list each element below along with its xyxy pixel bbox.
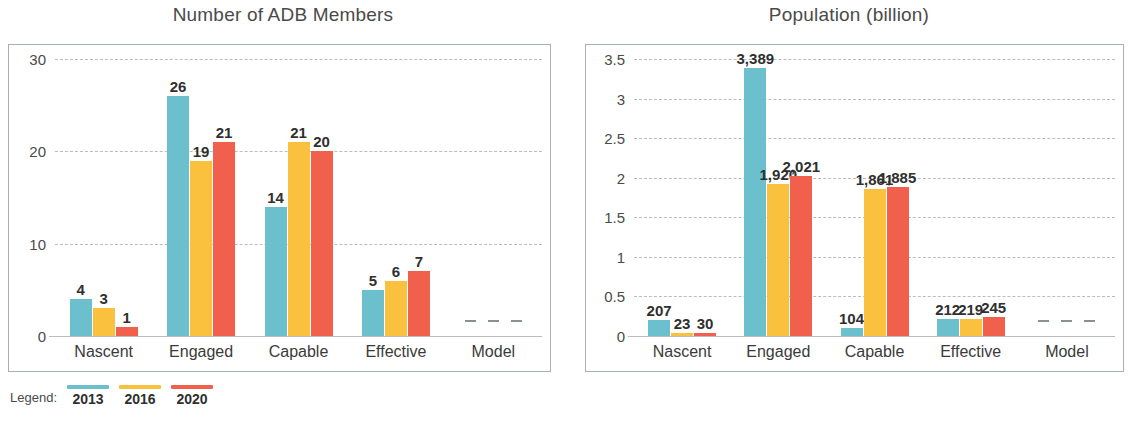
bar-slot (1056, 59, 1078, 336)
bar-2013-engaged[interactable]: 26 (167, 96, 189, 336)
bar-slot: 26 (167, 59, 189, 336)
x-axis-label-model: Model (445, 343, 542, 361)
x-axis-label-effective: Effective (347, 343, 444, 361)
y-axis-tick-label: 0 (38, 328, 46, 345)
bar-2013-capable[interactable]: 104 (841, 328, 863, 336)
bar-2020-nascent[interactable]: 30 (694, 333, 716, 336)
bar-slot: 1,920 (767, 59, 789, 336)
bar-group-model: Model (445, 59, 542, 336)
bar-2013-engaged[interactable]: 3,389 (744, 68, 766, 336)
bar-2016-nascent[interactable]: 3 (93, 308, 115, 336)
bar-2016-model[interactable] (1061, 320, 1072, 322)
bar-2016-capable[interactable]: 21 (288, 142, 310, 336)
bar-groups: 431Nascent261921Engaged142120Capable567E… (55, 59, 542, 336)
legend-swatch-2013 (67, 385, 109, 389)
bar-value-label: 1,885 (879, 170, 917, 185)
bar-slot: 3,389 (744, 59, 766, 336)
bar-slot: 1,885 (887, 59, 909, 336)
bar-2020-effective[interactable]: 245 (983, 317, 1005, 336)
bar-slot: 20 (311, 59, 333, 336)
bar-slot: 6 (385, 59, 407, 336)
y-axis-tick-label: 1.5 (604, 209, 625, 226)
bar-2016-nascent[interactable]: 23 (671, 333, 693, 336)
bar-group-capable: 1041,8611,885Capable (826, 59, 922, 336)
chart-title-population: Population (billion) (566, 4, 1132, 26)
bar-value-label: 6 (392, 264, 400, 279)
plot-area-population: 00.511.522.533.52072330Nascent3,3891,920… (634, 59, 1115, 336)
bar-2020-nascent[interactable]: 1 (116, 327, 138, 336)
bar-2020-effective[interactable]: 7 (408, 271, 430, 336)
bar-2016-engaged[interactable]: 19 (190, 161, 212, 336)
bar-2020-model[interactable] (511, 320, 522, 322)
bar-value-label: 19 (193, 144, 210, 159)
bar-2013-capable[interactable]: 14 (265, 207, 287, 336)
bar-2020-capable[interactable]: 20 (311, 151, 333, 336)
bar-value-label: 20 (313, 134, 330, 149)
bar-value-label: 219 (958, 302, 983, 317)
bar-slot: 23 (671, 59, 693, 336)
bar-2016-model[interactable] (488, 320, 499, 322)
x-axis-label-model: Model (1019, 343, 1115, 361)
bar-2013-nascent[interactable]: 207 (648, 320, 670, 336)
bar-2013-model[interactable] (465, 320, 476, 322)
bar-2013-nascent[interactable]: 4 (70, 299, 92, 336)
bar-slot (1079, 59, 1101, 336)
y-axis-tick-label: 3 (617, 90, 625, 107)
bar-2013-effective[interactable]: 212 (937, 319, 959, 336)
legend-item-2013[interactable]: 2013 (67, 385, 109, 406)
bar-2013-effective[interactable]: 5 (362, 290, 384, 336)
bar-group-capable: 142120Capable (250, 59, 347, 336)
bar-value-label: 3 (100, 291, 108, 306)
bar-slot (459, 59, 481, 336)
bar-2016-capable[interactable]: 1,861 (864, 189, 886, 336)
legend-year-label: 2020 (176, 392, 207, 406)
bar-2013-model[interactable] (1038, 320, 1049, 322)
bar-slot: 1,861 (864, 59, 886, 336)
bar-value-label: 21 (216, 125, 233, 140)
bar-slot: 1 (116, 59, 138, 336)
bar-2016-effective[interactable]: 219 (960, 319, 982, 336)
legend-item-2020[interactable]: 2020 (171, 385, 213, 406)
bar-slot: 5 (362, 59, 384, 336)
bar-slot (1033, 59, 1055, 336)
bar-value-label: 212 (935, 302, 960, 317)
bar-value-label: 1 (123, 310, 131, 325)
legend-caption: Legend: (10, 390, 57, 406)
x-axis-label-engaged: Engaged (730, 343, 826, 361)
y-axis-tick-label: 1 (617, 248, 625, 265)
bar-value-label: 245 (981, 300, 1006, 315)
bar-2020-capable[interactable]: 1,885 (887, 187, 909, 336)
y-axis-tick-label: 3.5 (604, 51, 625, 68)
bar-slot (482, 59, 504, 336)
y-axis-tick-label: 30 (29, 51, 46, 68)
y-axis-tick-label: 20 (29, 143, 46, 160)
bar-2020-engaged[interactable]: 21 (213, 142, 235, 336)
x-axis-label-capable: Capable (250, 343, 347, 361)
x-axis-line (628, 336, 1115, 337)
bar-2020-model[interactable] (1084, 320, 1095, 322)
y-axis-tick-label: 10 (29, 235, 46, 252)
bar-group-effective: 567Effective (347, 59, 444, 336)
bar-2016-effective[interactable]: 6 (385, 281, 407, 336)
y-axis-tick-label: 2 (617, 169, 625, 186)
bar-slot: 104 (841, 59, 863, 336)
bar-2020-engaged[interactable]: 2,021 (790, 176, 812, 336)
bar-group-nascent: 431Nascent (55, 59, 152, 336)
chart-frame-population: 00.511.522.533.52072330Nascent3,3891,920… (585, 44, 1124, 372)
bar-value-label: 23 (674, 316, 691, 331)
bar-group-engaged: 3,3891,9202,021Engaged (730, 59, 826, 336)
bar-slot: 2,021 (790, 59, 812, 336)
legend-year-label: 2016 (124, 392, 155, 406)
bar-value-label: 5 (369, 273, 377, 288)
bar-value-label: 4 (77, 282, 85, 297)
bar-slot: 7 (408, 59, 430, 336)
bar-value-label: 2,021 (783, 159, 821, 174)
bar-2016-engaged[interactable]: 1,920 (767, 184, 789, 336)
bar-value-label: 21 (290, 125, 307, 140)
plot-area-adb-members: 0102030431Nascent261921Engaged142120Capa… (55, 59, 542, 336)
bar-slot: 3 (93, 59, 115, 336)
chart-title-adb-members: Number of ADB Members (0, 4, 566, 26)
legend-item-2016[interactable]: 2016 (119, 385, 161, 406)
bar-slot: 4 (70, 59, 92, 336)
chart-frame-adb-members: 0102030431Nascent261921Engaged142120Capa… (8, 44, 551, 372)
